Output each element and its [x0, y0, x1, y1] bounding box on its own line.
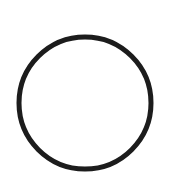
circle-figure: [0, 0, 170, 189]
canvas: [0, 0, 170, 189]
circle-outline-icon: [19, 37, 151, 169]
